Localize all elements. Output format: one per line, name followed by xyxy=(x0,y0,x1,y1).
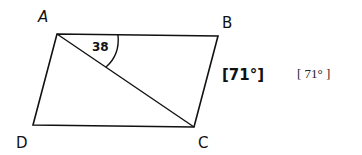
vertex-label-b: B xyxy=(222,14,232,32)
angle-value-label: 38 xyxy=(92,40,109,54)
typed-answer: [ 71° ] xyxy=(297,66,330,82)
vertex-label-c: C xyxy=(198,134,208,152)
vertex-label-d: D xyxy=(16,134,28,152)
handwritten-answer: [71°] xyxy=(222,66,264,84)
diagonal-ac xyxy=(57,34,194,127)
vertex-label-a: A xyxy=(37,8,48,26)
